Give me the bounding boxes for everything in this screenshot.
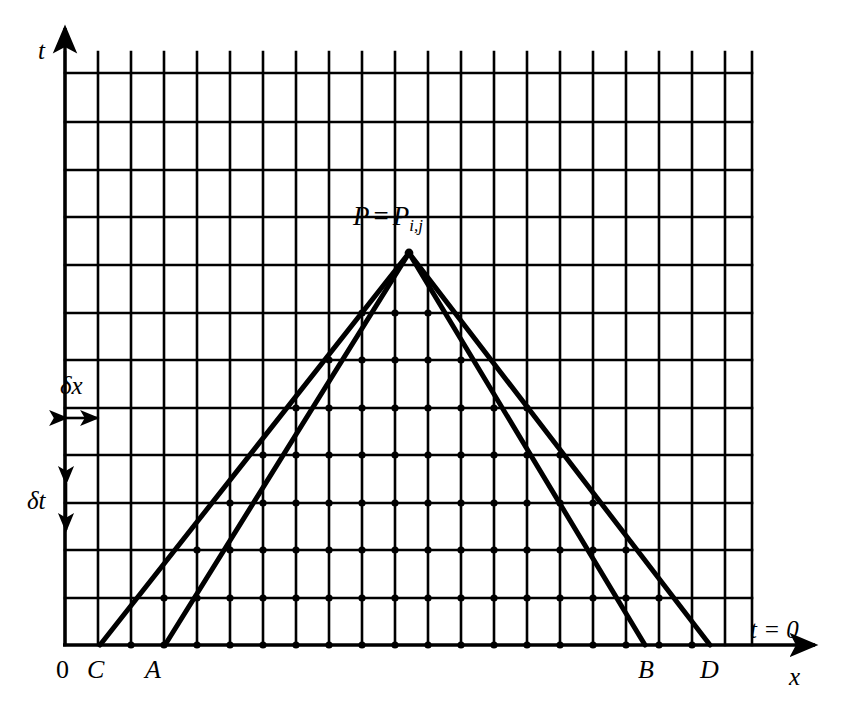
mesh-dot-6 [424,356,431,363]
mesh-dot-63 [523,594,530,601]
mesh-dot-2 [424,309,431,316]
apex-label-equals: = [370,201,393,231]
mesh-dot-52 [160,594,167,601]
apex-point-marker [405,249,414,258]
delta-x-label: δx [60,373,83,398]
mesh-dot-21 [424,451,431,458]
mesh-dot-11 [391,404,398,411]
mesh-dot-46 [457,546,464,553]
point-label-b: B [638,657,654,683]
apex-label-subscript: i,j [409,216,423,235]
mesh-dot-43 [358,546,365,553]
mesh-dot-34 [490,499,497,506]
mesh-dot-55 [259,594,266,601]
figure-root: t x 0 C A B D t = 0 δx δt P=Pi,j [0,0,847,718]
mesh-dot-62 [490,594,497,601]
point-label-a: A [145,657,161,683]
mesh-dot-26 [226,499,233,506]
mesh-dot-58 [358,594,365,601]
mesh-dot-12 [424,404,431,411]
mesh-dot-37 [589,499,596,506]
mesh-dot-10 [358,404,365,411]
mesh-dot-7 [457,356,464,363]
mesh-dot-33 [457,499,464,506]
mesh-dot-1 [391,309,398,316]
mesh-dot-29 [325,499,332,506]
spacing-dimension-arrows [66,418,97,530]
mesh-dot-27 [259,499,266,506]
mesh-dot-45 [424,546,431,553]
mesh-dot-47 [490,546,497,553]
point-label-c: C [87,657,104,683]
x-axis-label: x [789,664,800,689]
mesh-dot-20 [391,451,398,458]
mesh-dot-66 [622,594,629,601]
delta-t-label: δt [27,488,46,513]
mesh-dot-19 [358,451,365,458]
point-label-d: D [700,657,719,683]
mesh-dot-31 [391,499,398,506]
mesh-dot-65 [589,594,596,601]
mesh-dot-51 [622,546,629,553]
mesh-dot-32 [424,499,431,506]
mesh-dot-44 [391,546,398,553]
mesh-dot-40 [259,546,266,553]
mesh-dot-35 [523,499,530,506]
mesh-dot-5 [391,356,398,363]
mesh-dot-59 [391,594,398,601]
mesh-dot-67 [655,594,662,601]
mesh-dot-17 [292,451,299,458]
mesh-dot-42 [325,546,332,553]
mesh-dot-38 [193,546,200,553]
t-axis-label: t [38,38,45,63]
mesh-dot-30 [358,499,365,506]
mesh-dot-22 [457,451,464,458]
mesh-dot-64 [556,594,563,601]
cfl-diagram-svg [0,0,847,718]
mesh-dot-48 [523,546,530,553]
mesh-dot-49 [556,546,563,553]
mesh-dot-8 [292,404,299,411]
mesh-dot-14 [490,404,497,411]
apex-point-label: P=Pi,j [353,203,423,234]
origin-label: 0 [56,657,69,683]
apex-dot [405,249,414,258]
mesh-dot-60 [424,594,431,601]
mesh-dot-54 [226,594,233,601]
mesh-dot-56 [292,594,299,601]
mesh-dot-41 [292,546,299,553]
mesh-dot-23 [490,451,497,458]
mesh-dot-28 [292,499,299,506]
apex-label-main: P [353,201,370,231]
mesh-dot-61 [457,594,464,601]
mesh-dot-13 [457,404,464,411]
mesh-dot-4 [358,356,365,363]
mesh-dot-18 [325,451,332,458]
initial-time-label: t = 0 [750,617,799,642]
mesh-dot-16 [259,451,266,458]
mesh-dot-9 [325,404,332,411]
mesh-dot-57 [325,594,332,601]
apex-label-point: P [393,201,410,231]
